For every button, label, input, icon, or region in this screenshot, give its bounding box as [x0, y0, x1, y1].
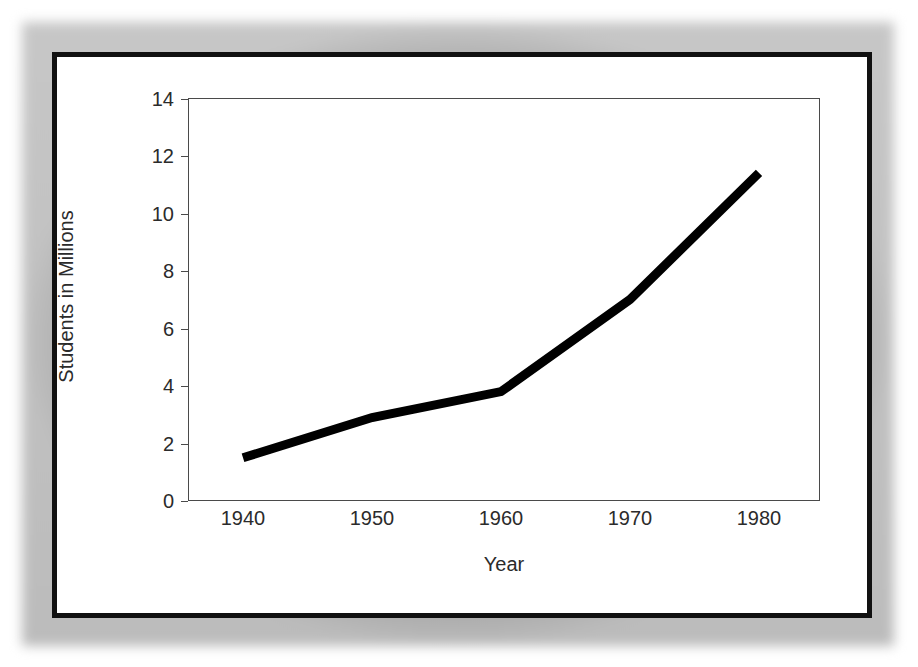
series-layer: [0, 0, 918, 667]
line-chart: 0 2 4 6 8 10 12 14 1940 1950 1960 1970 1…: [0, 0, 918, 667]
series-line-students: [243, 173, 759, 458]
figure-root: 0 2 4 6 8 10 12 14 1940 1950 1960 1970 1…: [0, 0, 918, 667]
